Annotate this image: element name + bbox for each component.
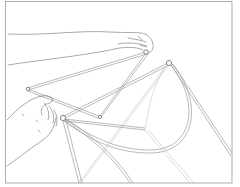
upper-hand [8, 32, 153, 65]
tent-poles [27, 52, 232, 184]
hub-lower-center [60, 115, 65, 120]
hub-upper-hand [144, 50, 148, 54]
hub-middle [98, 115, 101, 118]
illustration-frame [6, 2, 233, 184]
tent-assembly-illustration [0, 0, 240, 187]
hub-top-right [166, 60, 171, 65]
lower-hand [7, 96, 57, 166]
hub-left [26, 87, 30, 91]
